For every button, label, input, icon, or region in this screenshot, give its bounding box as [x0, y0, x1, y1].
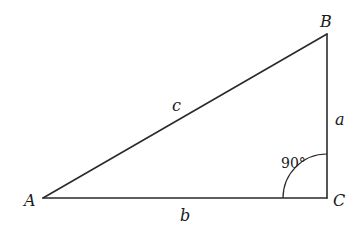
vertex-label-a: A — [22, 191, 36, 210]
vertex-label-b: B — [319, 12, 332, 31]
side-c-hypotenuse — [43, 34, 327, 198]
side-label-b: b — [180, 206, 190, 225]
vertex-label-c: C — [333, 191, 345, 210]
side-label-c: c — [172, 96, 181, 115]
right-triangle-diagram: A B C a b c 90° — [0, 0, 362, 229]
right-angle-label: 90° — [281, 155, 306, 171]
side-label-a: a — [335, 110, 345, 129]
triangle-edges — [43, 34, 327, 198]
